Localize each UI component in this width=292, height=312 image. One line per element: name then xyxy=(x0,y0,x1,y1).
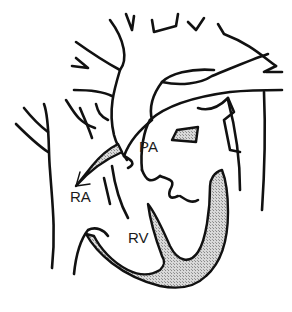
right-ventricle xyxy=(74,170,228,288)
superior-vena-cava xyxy=(66,14,134,160)
label-ra: RA xyxy=(70,188,91,205)
ductus-patch xyxy=(172,127,198,142)
label-rv: RV xyxy=(128,229,149,246)
heart-diagram: PA RA RV xyxy=(0,0,292,312)
label-pa: PA xyxy=(139,138,158,155)
right-atrium-wall xyxy=(16,104,54,268)
aortic-arch xyxy=(124,14,282,156)
